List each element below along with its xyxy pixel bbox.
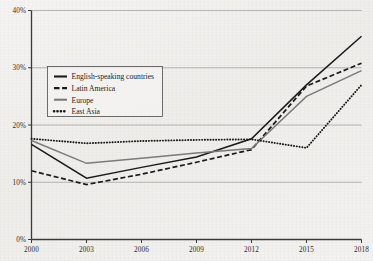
legend-label: Europe: [72, 96, 95, 105]
chart-canvas: 0%10%20%30%40% 2000200320062009201220152…: [0, 0, 373, 261]
y-tick-label: 30%: [13, 64, 26, 72]
x-axis-ticks: 2000200320062009201220152018: [24, 240, 369, 254]
y-tick-label: 40%: [13, 7, 26, 15]
x-tick-label: 2000: [24, 246, 39, 254]
x-tick-label: 2006: [134, 246, 149, 254]
legend-label: East Asia: [72, 107, 101, 116]
legend-label: English-speaking countries: [72, 72, 155, 81]
x-tick-label: 2018: [354, 246, 369, 254]
y-axis-ticks: 0%10%20%30%40%: [13, 7, 32, 244]
x-tick-label: 2015: [299, 246, 314, 254]
legend-label: Latin America: [72, 84, 116, 93]
x-tick-label: 2012: [244, 246, 259, 254]
y-tick-label: 0%: [16, 236, 26, 244]
x-tick-label: 2009: [189, 246, 204, 254]
line-chart: 0%10%20%30%40% 2000200320062009201220152…: [0, 0, 373, 261]
y-tick-label: 10%: [13, 179, 26, 187]
y-tick-label: 20%: [13, 122, 26, 130]
chart-legend: English-speaking countriesLatin AmericaE…: [48, 67, 163, 117]
x-tick-label: 2003: [79, 246, 94, 254]
